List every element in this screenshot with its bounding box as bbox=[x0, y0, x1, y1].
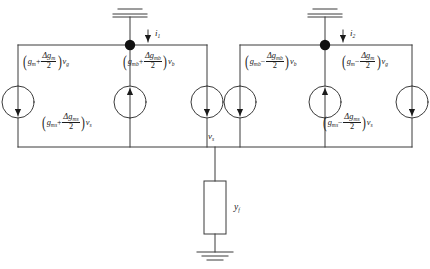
delta-g-subscript: m bbox=[51, 55, 55, 61]
yf-impedance-box bbox=[204, 181, 226, 234]
gmb-subscript: mb bbox=[132, 61, 139, 67]
v-subscript: b bbox=[294, 61, 297, 67]
delta-g: Δg bbox=[267, 51, 276, 60]
node-dot-i1 bbox=[125, 40, 135, 50]
delta-g-subscript: m bbox=[370, 55, 374, 61]
delta-g-subscript: ms bbox=[72, 116, 78, 122]
fraction: Δgmb2 bbox=[144, 52, 162, 71]
operator: + bbox=[36, 57, 41, 66]
ground-top-right-icon bbox=[308, 9, 342, 45]
denominator: 2 bbox=[343, 123, 360, 132]
delta-g: Δg bbox=[361, 51, 370, 60]
source-label-gmb-plus-vb: (gmb+Δgmb2)vb bbox=[122, 52, 175, 71]
source-label-gms-plus-vs: (gms+Δgms2)vs bbox=[41, 113, 92, 132]
paren-open: ( bbox=[342, 53, 346, 70]
paren-close: ) bbox=[362, 114, 366, 131]
paren-close: ) bbox=[81, 114, 85, 131]
source-label-gmb-minus-vb: (gmb−Δgmb2)vb bbox=[244, 52, 297, 71]
operator: − bbox=[338, 118, 343, 127]
fraction: Δgm2 bbox=[360, 52, 375, 71]
i1-subscript: 1 bbox=[158, 33, 161, 39]
gmb-subscript: mb bbox=[254, 61, 261, 67]
operator: − bbox=[355, 57, 360, 66]
fraction: Δgms2 bbox=[62, 113, 79, 132]
operator: + bbox=[57, 118, 62, 127]
v-subscript: g bbox=[385, 61, 388, 67]
paren-close: ) bbox=[377, 53, 381, 70]
paren-close: ) bbox=[58, 53, 62, 70]
paren-open: ( bbox=[245, 53, 249, 70]
delta-g-subscript: ms bbox=[353, 116, 359, 122]
yf-subscript: f bbox=[238, 207, 240, 213]
source-label-gm-plus-vg: (gm+Δgm2)vg bbox=[22, 52, 69, 71]
v-subscript: s bbox=[371, 122, 373, 128]
denominator: 2 bbox=[266, 62, 284, 71]
delta-g: Δg bbox=[42, 51, 51, 60]
denominator: 2 bbox=[41, 62, 56, 71]
node-dot-i2 bbox=[320, 40, 330, 50]
v-subscript: g bbox=[66, 61, 69, 67]
fraction: Δgms2 bbox=[343, 113, 360, 132]
i2-subscript: 2 bbox=[353, 33, 356, 39]
current-label-i2: i2 bbox=[350, 29, 355, 39]
ground-top-left-icon bbox=[113, 9, 147, 45]
v-subscript: b bbox=[172, 61, 175, 67]
current-label-i1: i1 bbox=[155, 29, 160, 39]
impedance-label-yf: yf bbox=[234, 203, 240, 213]
ground-bottom-icon bbox=[197, 252, 233, 260]
source-label-gm-minus-vg: (gm−Δgm2)vg bbox=[341, 52, 388, 71]
paren-open: ( bbox=[23, 53, 27, 70]
paren-open: ( bbox=[123, 53, 127, 70]
circuit-schematic-svg bbox=[0, 0, 430, 269]
paren-close: ) bbox=[285, 53, 289, 70]
circuit-diagram: (gm+Δgm2)vg (gms+Δgms2)vs (gmb+Δgmb2)vb … bbox=[0, 0, 430, 269]
vs-subscript: s bbox=[212, 136, 214, 142]
fraction: Δgm2 bbox=[41, 52, 56, 71]
denominator: 2 bbox=[360, 62, 375, 71]
node-label-vs: vs bbox=[208, 132, 214, 142]
paren-close: ) bbox=[163, 53, 167, 70]
delta-g: Δg bbox=[145, 51, 154, 60]
delta-g-subscript: mb bbox=[154, 55, 161, 61]
fraction: Δgmb2 bbox=[266, 52, 284, 71]
operator: − bbox=[261, 57, 266, 66]
paren-open: ( bbox=[323, 114, 327, 131]
v-subscript: s bbox=[90, 122, 92, 128]
denominator: 2 bbox=[62, 123, 79, 132]
source-label-gms-minus-vs: (gms−Δgms2)vs bbox=[322, 113, 373, 132]
denominator: 2 bbox=[144, 62, 162, 71]
paren-open: ( bbox=[42, 114, 46, 131]
delta-g-subscript: mb bbox=[276, 55, 283, 61]
operator: + bbox=[139, 57, 144, 66]
